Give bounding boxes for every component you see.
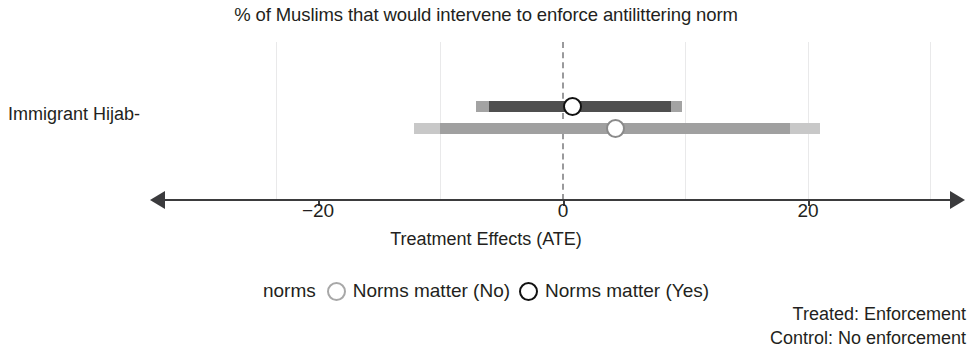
- y-axis-category-label: Immigrant Hijab-: [8, 104, 140, 125]
- legend-marker-norms-yes-icon: [519, 282, 538, 301]
- legend-marker-norms-no-icon: [327, 282, 346, 301]
- legend-label-norms-no: Norms matter (No): [353, 280, 510, 302]
- zero-reference-line: [562, 42, 564, 200]
- legend: norms Norms matter (No) Norms matter (Ye…: [0, 280, 972, 302]
- point-estimate-norms-yes: [563, 97, 582, 116]
- tick-label-zero: 0: [528, 200, 598, 222]
- legend-title: norms: [263, 280, 316, 302]
- gridline-minor-right3: [930, 42, 931, 200]
- footnote-treated: Treated: Enforcement: [770, 302, 966, 326]
- footnote-block: Treated: Enforcement Control: No enforce…: [770, 302, 966, 350]
- point-estimate-norms-no: [606, 119, 625, 138]
- footnote-control: Control: No enforcement: [770, 326, 966, 350]
- axis-arrow-right-icon: [950, 191, 965, 209]
- tick-label-minus20: −20: [283, 200, 353, 222]
- legend-item-norms-yes[interactable]: Norms matter (Yes): [519, 280, 709, 302]
- gridline-minor-left2: [276, 42, 277, 200]
- legend-label-norms-yes: Norms matter (Yes): [545, 280, 709, 302]
- legend-item-norms-no[interactable]: Norms matter (No): [327, 280, 510, 302]
- tick-label-20: 20: [773, 200, 843, 222]
- plot-area: [158, 42, 956, 200]
- gridline-minor-left1: [440, 42, 441, 200]
- gridline-minor-right2: [808, 42, 809, 200]
- gridline-minor-right1: [685, 42, 686, 200]
- chart-title: % of Muslims that would intervene to enf…: [0, 4, 972, 26]
- chart-root: % of Muslims that would intervene to enf…: [0, 0, 972, 353]
- x-axis-title: Treatment Effects (ATE): [0, 229, 972, 250]
